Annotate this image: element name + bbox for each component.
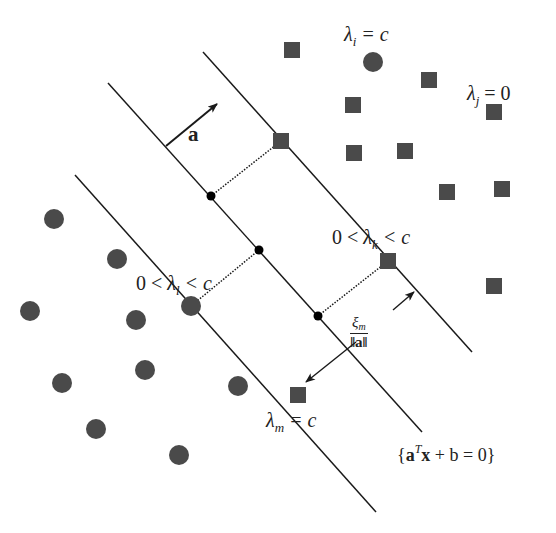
normal-vector-text: a [188, 122, 199, 146]
slack-fraction-label: ξm ‖a‖ [350, 310, 368, 350]
lambda-symbol: λ [167, 272, 176, 294]
brace-close: } [487, 445, 496, 465]
circle-data-point [86, 419, 106, 439]
vector-x: x [421, 445, 430, 465]
vector-a: a [406, 445, 415, 465]
lambda-upper-bound: < c [180, 272, 212, 294]
slack-arrow-up [393, 292, 414, 310]
square-data-point [421, 72, 437, 88]
square-data-point [273, 133, 289, 149]
xi-subscript: m [358, 321, 365, 332]
projection-dot [314, 312, 323, 321]
hyperplane-equation-label: {aTx + b = 0} [397, 443, 495, 464]
circle-data-point [126, 310, 146, 330]
dotted-projection-line [211, 141, 281, 196]
circle-data-point [52, 373, 72, 393]
brace-open: { [397, 445, 406, 465]
upper-margin-line [203, 52, 472, 352]
square-data-point [494, 181, 510, 197]
lambda-l-label: 0 < λl < c [136, 273, 212, 297]
equation-rest: + b = 0 [430, 445, 486, 465]
circle-data-point [135, 360, 155, 380]
square-data-point [397, 143, 413, 159]
normal-vector-label: a [188, 124, 199, 145]
circle-data-point [107, 249, 127, 269]
svm-diagram: a λi = c λj = 0 0 < λk < c 0 < λl < c λm… [0, 0, 556, 533]
circle-data-point [228, 376, 248, 396]
slack-arrow-down [306, 342, 356, 382]
lambda-value: = 0 [479, 82, 510, 104]
square-data-point [486, 278, 502, 294]
lambda-symbol: λ [363, 226, 372, 248]
lower-margin-line [75, 175, 376, 512]
square-data-point [290, 387, 306, 403]
lambda-i-label: λi = c [344, 24, 389, 48]
dotted-projection-line [318, 261, 388, 316]
square-data-point [284, 42, 300, 58]
circle-data-point [20, 301, 40, 321]
square-data-point [439, 184, 455, 200]
lambda-upper-bound: < c [378, 226, 410, 248]
class-circle-points [20, 52, 383, 465]
square-data-point [380, 253, 396, 269]
fraction-denominator: ‖a‖ [350, 334, 367, 350]
circle-data-point [363, 52, 383, 72]
lambda-k-label: 0 < λk < c [332, 227, 410, 251]
hyperplane-line [108, 83, 422, 432]
lambda-subscript: m [275, 420, 284, 435]
fraction: ξm ‖a‖ [350, 315, 368, 350]
square-data-point [346, 145, 362, 161]
circle-data-point [181, 296, 201, 316]
lambda-lower-bound: 0 < [332, 226, 363, 248]
lambda-symbol: λ [467, 82, 476, 104]
circle-data-point [44, 209, 64, 229]
lambda-m-label: λm = c [266, 410, 316, 434]
projection-dot [207, 192, 216, 201]
fraction-numerator: ξm [350, 315, 368, 334]
square-data-point [345, 97, 361, 113]
lambda-j-label: λj = 0 [467, 83, 511, 107]
projection-dot [255, 246, 264, 255]
lambda-symbol: λ [344, 23, 353, 45]
lambda-value: = c [284, 409, 316, 431]
lambda-value: = c [356, 23, 388, 45]
circle-data-point [169, 445, 189, 465]
lambda-symbol: λ [266, 409, 275, 431]
lambda-lower-bound: 0 < [136, 272, 167, 294]
